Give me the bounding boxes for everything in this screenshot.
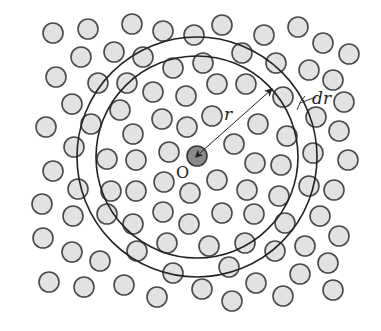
particle — [199, 236, 219, 256]
particle — [147, 287, 167, 307]
particle — [122, 14, 142, 34]
particle — [313, 33, 333, 53]
particle — [78, 19, 98, 39]
particle — [104, 42, 124, 62]
particle — [290, 264, 310, 284]
particle — [63, 206, 83, 226]
particle — [334, 92, 354, 112]
particle — [299, 60, 319, 80]
shell-thickness-label: dr — [312, 88, 332, 108]
particle — [318, 253, 338, 273]
particle — [295, 236, 315, 256]
particle — [323, 70, 343, 90]
particle — [126, 181, 146, 201]
particle — [202, 106, 222, 126]
radial-shell-diagram: r dr O — [0, 0, 381, 331]
origin-label: O — [176, 163, 189, 182]
particle — [254, 25, 274, 45]
particle — [43, 161, 63, 181]
particle — [212, 203, 232, 223]
particle — [62, 242, 82, 262]
particle — [46, 67, 66, 87]
particle — [222, 291, 242, 311]
particle — [265, 241, 285, 261]
particle — [329, 226, 349, 246]
particle — [33, 228, 53, 248]
particle — [117, 73, 137, 93]
radius-label: r — [224, 104, 233, 124]
particle — [207, 170, 227, 190]
particle — [338, 150, 358, 170]
particle — [310, 206, 330, 226]
particle — [123, 124, 143, 144]
particle — [154, 172, 174, 192]
particle — [39, 272, 59, 292]
particle — [153, 202, 173, 222]
particle — [157, 233, 177, 253]
particle — [329, 121, 349, 141]
particle — [32, 194, 52, 214]
particle — [159, 142, 179, 162]
particle — [245, 153, 265, 173]
particle — [244, 204, 264, 224]
particle — [248, 114, 268, 134]
particle — [74, 277, 94, 297]
particle — [306, 107, 326, 127]
particle — [303, 143, 323, 163]
particle — [114, 275, 134, 295]
particle — [339, 44, 359, 64]
particle — [123, 214, 143, 234]
particle — [177, 117, 197, 137]
particle — [62, 94, 82, 114]
particle — [184, 25, 204, 45]
particle — [207, 74, 227, 94]
particle — [323, 280, 343, 300]
particle — [127, 241, 147, 261]
particle — [126, 150, 146, 170]
particle — [71, 47, 91, 67]
particle — [266, 53, 286, 73]
particle — [273, 286, 293, 306]
particle — [68, 179, 88, 199]
particle — [269, 186, 289, 206]
particle — [324, 180, 344, 200]
particle — [271, 155, 291, 175]
particle — [64, 137, 84, 157]
diagram-canvas: r dr O — [0, 0, 381, 331]
particle — [143, 82, 163, 102]
particle — [176, 86, 196, 106]
particle — [179, 214, 199, 234]
particle — [192, 279, 212, 299]
particle — [212, 15, 232, 35]
particle — [97, 149, 117, 169]
particle — [90, 251, 110, 271]
particle — [153, 21, 173, 41]
particle — [180, 183, 200, 203]
particle — [246, 273, 266, 293]
particle — [236, 74, 256, 94]
particle — [288, 17, 308, 37]
particle — [43, 23, 63, 43]
particle — [110, 100, 130, 120]
particle — [237, 180, 257, 200]
particle — [36, 117, 56, 137]
particle — [152, 109, 172, 129]
particle — [299, 176, 319, 196]
particle — [224, 134, 244, 154]
